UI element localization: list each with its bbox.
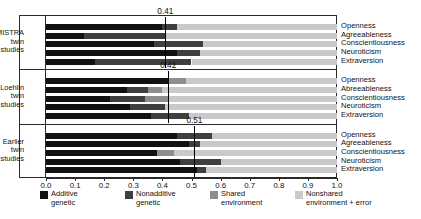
bar-segment [165,33,337,39]
bar-row [46,59,337,65]
bar-segment [168,96,337,102]
legend-label-line: environment [221,199,262,208]
legend-item: Nonadditivegenetic [125,190,176,208]
legend-label-line: environment + error [306,199,372,208]
bar-segment [46,96,110,102]
x-tick-label: 0.5 [186,181,197,190]
bar-row [46,167,337,173]
bar-row [46,96,337,102]
group-divider [19,69,337,70]
bar-row [46,104,337,110]
bar-segment [46,113,151,119]
bar-row [46,33,337,39]
bar-segment [151,113,189,119]
group-label: Earliertwinstudies [0,138,24,164]
bar-segment [46,141,189,147]
bar-segment [127,87,147,93]
bar-segment [46,33,84,39]
group-label: MISTRAtwinstudies [0,29,24,55]
group-divider [19,124,337,125]
chart-figure: MISTRAtwinstudiesLoehlintwinstudiesEarli… [0,0,421,219]
bar-row [46,141,337,147]
trait-label: Extraversion [341,57,383,66]
bar-segment [130,104,165,110]
bar-segment [46,87,127,93]
bar-segment [46,50,177,56]
bar-segment [110,96,145,102]
legend-swatch-icon [295,191,303,199]
bar-segment [165,104,337,110]
bar-segment [46,104,130,110]
reference-line-label: 0.41 [157,7,173,16]
legend-label: Nonadditivegenetic [136,190,176,208]
group-label: Loehlintwinstudies [0,84,24,110]
legend-label: Nonsharedenvironment + error [306,190,372,208]
bar-segment [180,159,221,165]
bar-segment [46,133,177,139]
x-tick-label: 0.8 [273,181,284,190]
bar-segment [145,96,168,102]
trait-label: Extraversion [341,111,383,120]
legend-label: Sharedenvironment [221,190,262,208]
group-label-line: studies [0,46,24,55]
trait-label: Extraversion [341,165,383,174]
bar-segment [212,133,337,139]
group-label-line: studies [0,155,24,164]
bar-segment [168,78,185,84]
legend-label-line: genetic [51,199,78,208]
x-tick-label: 0.7 [244,181,255,190]
legend-swatch-icon [40,191,48,199]
bar-row [46,133,337,139]
bar-segment [154,41,203,47]
bar-segment [157,150,174,156]
bar-row [46,50,337,56]
bar-segment [206,167,337,173]
bar-row [46,78,337,84]
group-label-line: studies [0,101,24,110]
bar-segment [148,87,163,93]
bar-segment [203,41,337,47]
legend-swatch-icon [210,191,218,199]
legend-item: Nonsharedenvironment + error [295,190,372,208]
bar-segment [95,59,191,65]
bar-segment [162,87,337,93]
bar-row [46,159,337,165]
reference-line [194,126,195,177]
bar-segment [84,33,165,39]
chart-legend: AdditivegeneticNonadditivegeneticSharede… [40,190,380,216]
x-tick-label: 0.0 [41,181,52,190]
x-tick-label: 0.2 [99,181,110,190]
legend-label-line: genetic [136,199,176,208]
legend-item: Sharedenvironment [210,190,262,208]
bar-segment [192,59,338,65]
bar-segment [200,50,337,56]
bar-segment [221,159,337,165]
bar-row [46,87,337,93]
bar-segment [46,41,154,47]
bar-row [46,150,337,156]
plot-area [46,15,337,178]
bar-row [46,41,337,47]
bar-segment [177,24,337,30]
legend-label: Additivegenetic [51,190,78,208]
bar-segment [200,141,337,147]
reference-line [168,71,169,122]
bar-segment [46,167,197,173]
bar-segment [46,24,162,30]
bar-segment [46,59,95,65]
bar-segment [46,159,180,165]
bar-segment [46,150,157,156]
bar-segment [46,78,168,84]
bar-segment [189,113,337,119]
legend-swatch-icon [125,191,133,199]
bar-segment [186,78,337,84]
bar-segment [174,150,337,156]
legend-item: Additivegenetic [40,190,78,208]
bar-row [46,24,337,30]
bar-segment [177,50,200,56]
bar-segment [197,167,206,173]
